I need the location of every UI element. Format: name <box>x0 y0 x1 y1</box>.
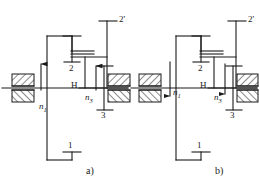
diagram-b <box>131 21 258 160</box>
label-b-gear-1: 1 <box>197 141 202 150</box>
bearing-support-b-lower <box>139 90 161 102</box>
bearing-support-b-right-lower <box>237 90 258 102</box>
ring-gear-1-a <box>47 36 81 160</box>
planet-gear-2-b <box>193 36 209 62</box>
bearing-support-a-right-lower <box>108 90 130 102</box>
ring-gear-1-b <box>176 36 210 160</box>
label-a-input-speed: n1 <box>39 102 47 113</box>
label-a-gear-3: 3 <box>101 111 106 120</box>
planet-gear-2p-a <box>71 51 107 57</box>
bearing-support-a-right-upper <box>108 74 130 86</box>
bearing-support-a-lower <box>12 90 34 102</box>
planet-gear-2p-b <box>200 51 236 57</box>
bearing-support-b-right-upper <box>237 74 258 86</box>
label-a-gear-2-prime: 2' <box>119 15 125 24</box>
label-a-gear-1: 1 <box>68 141 73 150</box>
label-b-input-speed: n1 <box>173 88 181 99</box>
bearing-support-a-upper <box>12 74 34 86</box>
label-b-carrier: H <box>200 81 207 90</box>
label-a-gear-2: 2 <box>69 64 74 73</box>
diagram-a <box>2 21 130 160</box>
label-b-gear-2: 2 <box>198 64 203 73</box>
caption-a: a) <box>86 166 94 176</box>
label-b-gear-3: 3 <box>230 111 235 120</box>
label-b-gear-2-prime: 2' <box>248 15 254 24</box>
label-a-output-speed: n3 <box>85 93 93 104</box>
bearing-support-b-upper <box>139 74 161 86</box>
caption-b: b) <box>215 166 223 176</box>
planet-gear-2-a <box>64 36 80 62</box>
label-a-carrier: H <box>71 81 78 90</box>
label-b-output-speed: n3 <box>214 93 222 104</box>
